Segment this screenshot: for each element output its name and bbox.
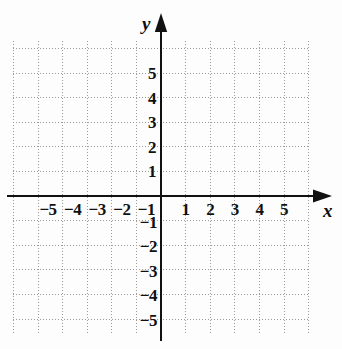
y-tick-label: −3 (140, 262, 157, 279)
x-tick-label: 4 (255, 201, 263, 218)
x-tick-label: 5 (280, 201, 288, 218)
y-tick-label: 2 (148, 138, 156, 155)
axes (7, 13, 332, 341)
y-tick-label: 4 (148, 89, 156, 106)
y-tick-label: 1 (148, 163, 156, 180)
y-axis-label: y (142, 14, 150, 33)
x-axis-label: x (323, 201, 333, 220)
coordinate-plane-svg (0, 0, 342, 349)
y-axis-arrowhead (155, 13, 167, 32)
y-tick-label: −4 (140, 287, 157, 304)
x-tick-label: −3 (89, 201, 106, 218)
y-tick-label: −5 (140, 312, 157, 329)
x-tick-label: 1 (182, 201, 190, 218)
y-tick-label: −2 (140, 238, 157, 255)
x-tick-label: −5 (39, 201, 56, 218)
y-tick-label: 5 (148, 65, 156, 82)
x-tick-label: −4 (64, 201, 81, 218)
x-tick-label: 2 (206, 201, 214, 218)
coordinate-plane-figure: y x −5−4−3−2−11234554321−1−2−3−4−5 (0, 0, 342, 349)
x-tick-label: 3 (231, 201, 239, 218)
y-tick-label: 3 (148, 114, 156, 131)
y-tick-label: −1 (140, 213, 157, 230)
x-tick-label: −2 (113, 201, 130, 218)
